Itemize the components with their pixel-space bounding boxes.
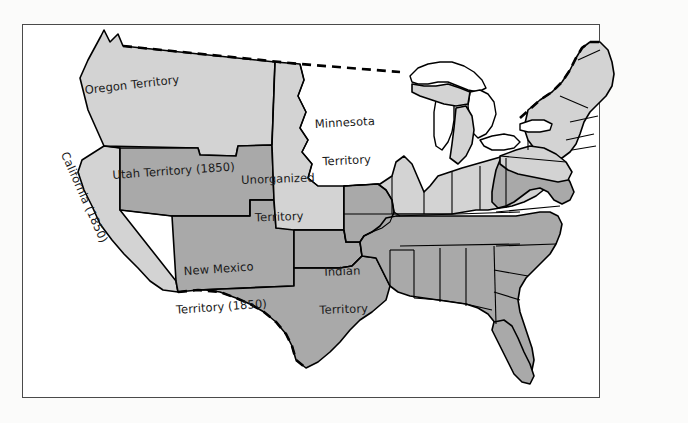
lake-ontario — [520, 120, 552, 132]
us-map-1850 — [0, 0, 688, 423]
unorganized-territory-region — [272, 62, 344, 230]
map-page: Oregon Territory Minnesota Territory Uno… — [0, 0, 688, 423]
southern-slave-states-region — [360, 212, 562, 374]
map-landmasses — [78, 30, 614, 384]
oregon-territory-region — [80, 30, 275, 156]
lake-erie — [480, 134, 520, 150]
